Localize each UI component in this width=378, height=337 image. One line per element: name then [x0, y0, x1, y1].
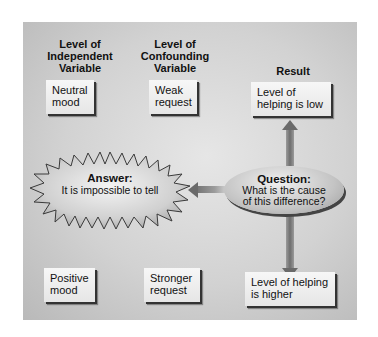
question-ellipse: Question: What is the cause of this diff… — [224, 166, 344, 214]
box-stronger-request: Stronger request — [144, 268, 200, 302]
header-confounding-variable: Level of Confounding Variable — [130, 38, 220, 74]
arrow-up-icon — [282, 120, 298, 130]
box-helping-low: Level of helping is low — [251, 82, 331, 116]
question-text: What is the cause of this difference? — [224, 185, 344, 207]
answer-title: Answer: — [40, 172, 180, 184]
header-result: Result — [253, 65, 333, 77]
arrow-down-shaft — [286, 214, 294, 270]
question-title: Question: — [224, 174, 344, 185]
box-positive-mood: Positive mood — [44, 268, 95, 302]
box-neutral-mood: Neutral mood — [46, 80, 94, 114]
header-independent-variable: Level of Independent Variable — [35, 38, 125, 74]
answer-text: It is impossible to tell — [40, 184, 180, 196]
arrow-up-shaft — [286, 130, 294, 166]
box-helping-higher: Level of helping is higher — [245, 272, 335, 306]
box-weak-request: Weak request — [149, 80, 197, 114]
arrow-left-shaft — [198, 186, 226, 193]
answer-callout: Answer: It is impossible to tell — [40, 172, 180, 196]
